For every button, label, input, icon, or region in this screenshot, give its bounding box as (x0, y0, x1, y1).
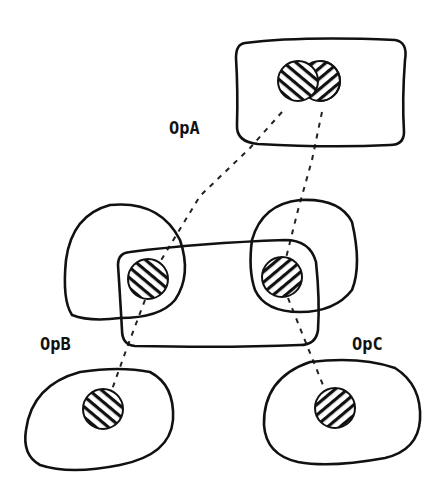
hatched-circle-b-mid (128, 259, 168, 299)
hatched-circle-b-bottom (83, 389, 123, 429)
hatched-circle-c-bottom (315, 388, 355, 428)
operation-diagram: OpA OpB OpC (0, 0, 444, 482)
label-opC: OpC (352, 334, 383, 354)
hatched-circle-a1 (278, 61, 318, 101)
left-blob (65, 204, 185, 319)
label-opA: OpA (169, 118, 200, 138)
label-opB: OpB (40, 334, 71, 354)
hatched-circle-c-mid (262, 257, 302, 297)
right-blob (251, 200, 357, 312)
connector-b-to-bottom (110, 300, 145, 395)
